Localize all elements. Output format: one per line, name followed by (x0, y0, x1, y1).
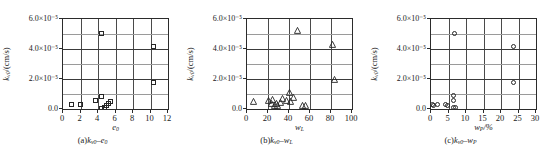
data-point-square (78, 102, 83, 107)
data-point-circle (452, 31, 457, 36)
y-axis-tick-label: 2.0×10⁻⁵ (213, 74, 242, 83)
y-axis-tick (427, 18, 430, 19)
data-point-square (93, 98, 98, 103)
plot-frame-c (430, 18, 537, 110)
x-axis-title-b: wL (246, 122, 353, 132)
caption-c: (c)kv0–wP (368, 135, 553, 145)
gridline-horizontal (431, 79, 536, 80)
chart-panel-c: kv0/(cm/s) 0510152025300.02.0×10⁻⁵4.0×10… (368, 0, 553, 152)
data-point-square (151, 44, 156, 49)
data-point-circle (445, 103, 450, 108)
y-axis-tick-label: 2.0×10⁻⁵ (29, 74, 58, 83)
gridline-horizontal (431, 94, 536, 95)
y-axis-tick (243, 108, 246, 109)
y-axis-tick-label: 4.0×10⁻⁵ (213, 44, 242, 53)
y-axis-tick-label: 0.0 (416, 104, 426, 113)
gridline-horizontal (247, 64, 352, 65)
x-axis-title-c: wP/% (430, 122, 537, 132)
y-axis-tick-label: 0.0 (232, 104, 242, 113)
y-axis-tick-label: 2.0×10⁻⁵ (397, 74, 426, 83)
data-point-square (151, 80, 156, 85)
y-axis-tick-label: 6.0×10⁻⁵ (213, 14, 242, 23)
plot-area-a: 0246810120.02.0×10⁻⁵4.0×10⁻⁵6.0×10⁻⁵ (62, 18, 169, 110)
plot-frame-a (62, 18, 169, 110)
y-axis-tick (427, 78, 430, 79)
gridline-horizontal (63, 64, 168, 65)
y-axis-tick (59, 48, 62, 49)
y-axis-title-b: kv0/(cm/s) (185, 24, 195, 104)
y-axis-title-c: kv0/(cm/s) (369, 24, 379, 104)
gridline-horizontal (431, 64, 536, 65)
gridline-horizontal (63, 94, 168, 95)
gridline-horizontal (431, 34, 536, 35)
caption-a: (a)kv0–e0 (0, 135, 185, 145)
y-axis-tick (243, 48, 246, 49)
y-axis-title-a: kv0/(cm/s) (1, 24, 11, 104)
y-axis-tick (243, 18, 246, 19)
data-point-circle (451, 98, 456, 103)
data-point-circle (435, 102, 440, 107)
gridline-horizontal (63, 34, 168, 35)
plot-frame-b (246, 18, 353, 110)
y-axis-tick (59, 108, 62, 109)
y-axis-tick-label: 4.0×10⁻⁵ (29, 44, 58, 53)
y-axis-tick-label: 4.0×10⁻⁵ (397, 44, 426, 53)
gridline-horizontal (431, 49, 536, 50)
figure-scatter-panels: kv0/(cm/s) 0246810120.02.0×10⁻⁵4.0×10⁻⁵6… (0, 0, 553, 152)
chart-panel-a: kv0/(cm/s) 0246810120.02.0×10⁻⁵4.0×10⁻⁵6… (0, 0, 185, 152)
y-axis-tick (427, 108, 430, 109)
plot-area-b: 0204060801000.02.0×10⁻⁵4.0×10⁻⁵6.0×10⁻⁵ (246, 18, 353, 110)
y-axis-tick (427, 48, 430, 49)
y-axis-tick-label: 6.0×10⁻⁵ (397, 14, 426, 23)
data-point-square (69, 102, 74, 107)
y-axis-tick-label: 0.0 (48, 104, 58, 113)
caption-b: (b)kv0–wL (184, 135, 369, 145)
data-point-square (99, 31, 104, 36)
data-point-circle (453, 105, 458, 110)
data-point-square (108, 99, 113, 104)
gridline-horizontal (247, 94, 352, 95)
gridline-horizontal (247, 49, 352, 50)
y-axis-tick (59, 78, 62, 79)
chart-panel-b: kv0/(cm/s) 0204060801000.02.0×10⁻⁵4.0×10… (184, 0, 369, 152)
y-axis-tick-label: 6.0×10⁻⁵ (29, 14, 58, 23)
plot-area-c: 0510152025300.02.0×10⁻⁵4.0×10⁻⁵6.0×10⁻⁵ (430, 18, 537, 110)
data-point-square (99, 94, 104, 99)
x-axis-title-a: e0 (62, 122, 169, 132)
y-axis-tick (243, 78, 246, 79)
y-axis-tick (59, 18, 62, 19)
data-point-circle (511, 80, 516, 85)
